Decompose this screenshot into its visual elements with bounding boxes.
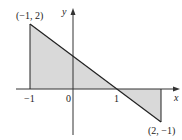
tick-label-1: 1: [114, 93, 119, 104]
tick-label-neg1: −1: [24, 93, 35, 104]
x-axis-label: x: [173, 92, 179, 103]
y-axis-arrow-icon: [71, 8, 76, 15]
x-axis-arrow-icon: [173, 87, 180, 92]
graph: y x −1 0 1 (−1, 2) (2, −1): [0, 0, 182, 140]
point-label-top: (−1, 2): [16, 10, 43, 22]
tick-label-0: 0: [66, 93, 71, 104]
y-axis-label: y: [61, 6, 67, 17]
point-label-bottom: (2, −1): [148, 125, 175, 137]
